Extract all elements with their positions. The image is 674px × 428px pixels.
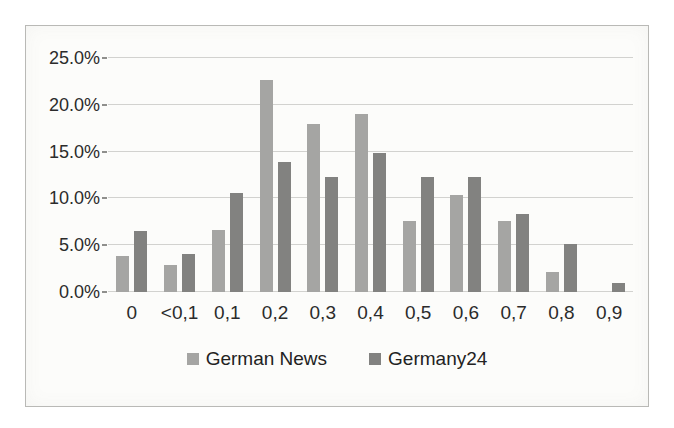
bar-german-news-0,8	[546, 272, 559, 292]
legend-swatch-icon	[369, 353, 381, 365]
y-axis-tick	[102, 197, 107, 199]
gridline	[108, 104, 633, 105]
bar-germany24-<0,1	[182, 254, 195, 292]
y-tick-label: 25.0%	[26, 48, 100, 68]
bar-germany24-0,3	[325, 177, 338, 292]
bar-germany24-0,2	[278, 162, 291, 292]
bar-german-news-0	[116, 256, 129, 292]
legend: German NewsGermany24	[26, 348, 648, 370]
bar-german-news-0,1	[212, 230, 225, 292]
bar-german-news-<0,1	[164, 265, 177, 292]
bar-german-news-0,7	[498, 221, 511, 292]
x-axis: 0<0,10,10,20,30,40,50,60,70,80,9	[108, 302, 633, 328]
bar-germany24-0,9	[612, 283, 625, 292]
x-tick-label: 0,9	[579, 302, 639, 324]
bar-german-news-0,3	[307, 124, 320, 292]
y-axis-tick	[102, 291, 107, 293]
y-axis-tick	[102, 104, 107, 106]
y-tick-label: 20.0%	[26, 95, 100, 115]
bar-germany24-0,5	[421, 177, 434, 292]
y-axis-tick	[102, 57, 107, 59]
y-tick-label: 15.0%	[26, 142, 100, 162]
legend-label: German News	[206, 348, 327, 370]
plot-area	[108, 58, 633, 292]
bar-german-news-0,4	[355, 114, 368, 292]
bar-germany24-0,8	[564, 244, 577, 292]
y-axis-tick	[102, 151, 107, 153]
bar-germany24-0	[134, 231, 147, 292]
bar-german-news-0,6	[450, 195, 463, 292]
y-tick-label: 5.0%	[26, 235, 100, 255]
bar-german-news-0,2	[260, 80, 273, 292]
bar-germany24-0,4	[373, 153, 386, 292]
legend-item-germany24: Germany24	[369, 348, 487, 370]
gridline	[108, 197, 633, 198]
y-axis-tick	[102, 244, 107, 246]
bar-germany24-0,1	[230, 193, 243, 292]
gridline	[108, 244, 633, 245]
bar-germany24-0,6	[468, 177, 481, 292]
gridline	[108, 151, 633, 152]
y-axis: 0.0%5.0%10.0%15.0%20.0%25.0%	[26, 58, 100, 292]
bar-german-news-0,5	[403, 221, 416, 292]
legend-swatch-icon	[187, 353, 199, 365]
legend-item-german-news: German News	[187, 348, 327, 370]
chart-frame: 0.0%5.0%10.0%15.0%20.0%25.0% 0<0,10,10,2…	[25, 25, 649, 407]
bar-germany24-0,7	[516, 214, 529, 292]
y-tick-label: 10.0%	[26, 188, 100, 208]
gridline	[108, 57, 633, 58]
legend-label: Germany24	[388, 348, 487, 370]
y-tick-label: 0.0%	[26, 282, 100, 302]
figure: 0.0%5.0%10.0%15.0%20.0%25.0% 0<0,10,10,2…	[0, 0, 674, 428]
